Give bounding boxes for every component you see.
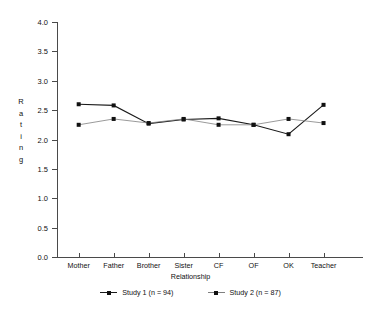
chart-legend: Study 1 (n = 94)Study 2 (n = 87) [0, 288, 381, 297]
x-tick-label: Father [103, 261, 124, 270]
data-point-marker [252, 123, 256, 127]
data-point-marker [322, 121, 326, 125]
y-axis-title: Rating [14, 96, 28, 165]
data-point-marker [217, 116, 221, 120]
data-point-marker [112, 103, 116, 107]
y-tick-label: 1.5 [38, 164, 48, 173]
y-tick-label: 1.0 [38, 194, 48, 203]
chart-figure: Rating 0.00.51.01.52.02.53.03.54.0 Mothe… [0, 0, 381, 316]
y-tick-label: 2.5 [38, 106, 48, 115]
legend-entry: Study 1 (n = 94) [100, 288, 173, 297]
y-tick-mark [52, 257, 57, 258]
y-tick-label: 3.5 [38, 47, 48, 56]
y-axis-title-letter: n [14, 142, 28, 154]
data-point-marker [217, 123, 221, 127]
y-axis-title-letter: a [14, 108, 28, 120]
y-tick-label: 2.0 [38, 135, 48, 144]
data-point-marker [287, 132, 291, 136]
y-axis-title-letter: i [14, 131, 28, 143]
x-tick-label: OK [283, 261, 293, 270]
y-axis-title-letter: R [14, 96, 28, 108]
x-tick-label: OF [249, 261, 259, 270]
series-canvas [57, 22, 362, 257]
plot-area [57, 22, 362, 257]
data-point-marker [287, 117, 291, 121]
y-tick-label: 0.0 [38, 253, 48, 262]
x-tick-label: Sister [174, 261, 192, 270]
data-point-marker [322, 103, 326, 107]
x-tick-label: CF [214, 261, 224, 270]
legend-marker-icon [208, 289, 225, 296]
legend-label: Study 2 (n = 87) [230, 288, 281, 297]
legend-entry: Study 2 (n = 87) [208, 288, 281, 297]
data-point-marker [182, 117, 186, 121]
y-tick-label: 3.0 [38, 76, 48, 85]
data-point-marker [112, 117, 116, 121]
x-tick-label: Teacher [311, 261, 337, 270]
x-tick-label: Brother [137, 261, 161, 270]
y-tick-label: 0.5 [38, 223, 48, 232]
legend-marker-icon [100, 289, 117, 296]
x-axis-line [57, 257, 363, 258]
data-point-marker [147, 121, 151, 125]
y-tick-label: 4.0 [38, 18, 48, 27]
y-axis-title-letter: g [14, 154, 28, 166]
x-axis-title: Relationship [0, 272, 381, 281]
data-point-marker [77, 123, 81, 127]
data-point-marker [77, 102, 81, 106]
y-axis-title-letter: t [14, 119, 28, 131]
x-tick-label: Mother [67, 261, 89, 270]
legend-label: Study 1 (n = 94) [122, 288, 173, 297]
